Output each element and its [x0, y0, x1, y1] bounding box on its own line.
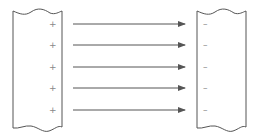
plus-sign: + [49, 83, 57, 93]
plus-sign: + [49, 40, 57, 50]
plus-sign: + [49, 105, 57, 115]
minus-sign: – [203, 19, 208, 29]
minus-sign: – [203, 62, 208, 72]
minus-sign: – [203, 83, 208, 93]
plus-sign: + [49, 19, 57, 29]
plus-sign: + [49, 62, 57, 72]
positive-charges: + + + + + [49, 19, 57, 115]
minus-sign: – [203, 40, 208, 50]
negative-charges: – – – – – [203, 19, 208, 115]
minus-sign: – [203, 105, 208, 115]
field-diagram: + + + + + – – – – – [0, 0, 262, 140]
field-arrows [73, 24, 185, 110]
